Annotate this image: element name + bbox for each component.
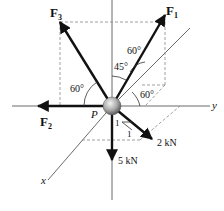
force-f3: [60, 22, 112, 106]
f1-label: F1: [166, 3, 178, 20]
angle-f1-45: 45°: [114, 61, 128, 72]
point-p: P: [90, 108, 98, 120]
force-diagram: F3 F1 F2 60° 45° 60° 60° P 1 1 2 kN 5 kN…: [0, 0, 224, 211]
f2-label: F2: [40, 114, 52, 131]
x-axis-label: x: [40, 174, 46, 186]
load-2kn-label: 2 kN: [157, 137, 177, 148]
slope-a: 1: [115, 118, 120, 128]
construction-lines: [60, 22, 180, 140]
angle-f1-y: 60°: [140, 89, 154, 100]
angle-f3: 60°: [70, 83, 84, 94]
particle-p: [103, 97, 121, 115]
load-5kn-label: 5 kN: [118, 155, 138, 166]
y-axis-label: y: [211, 99, 217, 111]
slope-b: 1: [127, 129, 132, 139]
f3-label: F3: [50, 5, 62, 22]
x-axis: [48, 106, 112, 180]
forces: [38, 15, 165, 160]
angle-f1-z: 60°: [127, 45, 141, 56]
